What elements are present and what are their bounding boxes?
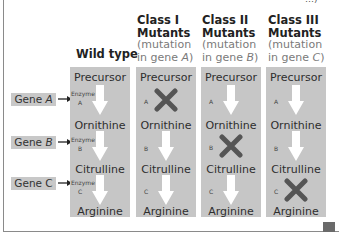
compound-precursor: Precursor — [70, 71, 130, 84]
gene-a-label: Gene A — [11, 93, 56, 106]
down-arrow-icon — [92, 131, 108, 161]
gene-c-label: Gene C — [11, 177, 56, 190]
enzyme-letter: C — [144, 188, 148, 195]
header-sub: in gene C) — [268, 52, 334, 65]
compound-precursor: Precursor — [136, 71, 196, 84]
header-title: Class III — [268, 14, 334, 27]
compound-citrulline: Citrulline — [266, 163, 326, 176]
blocked-x-icon — [154, 88, 178, 112]
enzyme-letter: C — [78, 188, 82, 195]
enzyme-letter: A — [144, 98, 148, 105]
column-class-2: Precursor A Ornithine B Citrulline C Arg… — [201, 67, 261, 217]
down-arrow-icon — [223, 85, 239, 115]
enzyme-letter: B — [274, 145, 278, 152]
enzyme-letter: B — [209, 144, 213, 151]
gene-b-label: Gene B — [11, 136, 56, 149]
down-arrow-icon — [288, 131, 304, 161]
enzyme-letter: A — [209, 98, 213, 105]
enzyme-letter: A — [274, 98, 278, 105]
header-class-3: Class III Mutants (mutation in gene C) — [268, 14, 334, 64]
column-class-1: Precursor A Ornithine B Citrulline C Arg… — [136, 67, 196, 217]
compound-arginine: Arginine — [70, 205, 130, 218]
compound-arginine: Arginine — [201, 205, 261, 218]
compound-ornithine: Ornithine — [201, 119, 261, 132]
compound-precursor: Precursor — [201, 71, 261, 84]
blocked-x-icon — [219, 134, 243, 158]
enzyme-letter: C — [274, 188, 278, 195]
header-class-2: Class II Mutants (mutation in gene B) — [202, 14, 268, 64]
compound-arginine: Arginine — [266, 205, 326, 218]
down-arrow-icon — [92, 85, 108, 115]
blocked-x-icon — [284, 178, 308, 202]
column-class-3: Precursor A Ornithine B Citrulline C Arg… — [266, 67, 326, 217]
down-arrow-icon — [223, 175, 239, 205]
header-wild-type: Wild type — [76, 47, 138, 61]
corner-marker — [323, 222, 335, 232]
down-arrow-icon — [158, 175, 174, 205]
header-title: Class II — [202, 14, 268, 27]
header-sub: in gene A) — [137, 52, 203, 65]
compound-precursor: Precursor — [266, 71, 326, 84]
cut-off-caption: …) — [305, 0, 318, 4]
column-wild-type: Precursor Enzyme A Ornithine Enzyme B Ci… — [70, 67, 130, 217]
down-arrow-icon — [92, 175, 108, 205]
down-arrow-icon — [288, 85, 304, 115]
header-class-1: Class I Mutants (mutation in gene A) — [137, 14, 203, 64]
down-arrow-icon — [158, 131, 174, 161]
enzyme-letter: B — [144, 145, 148, 152]
enzyme-letter: A — [78, 99, 82, 106]
header-title: Class I — [137, 14, 203, 27]
enzyme-letter: C — [209, 188, 213, 195]
header-sub: in gene B) — [202, 52, 268, 65]
enzyme-letter: B — [78, 145, 82, 152]
compound-arginine: Arginine — [136, 205, 196, 218]
